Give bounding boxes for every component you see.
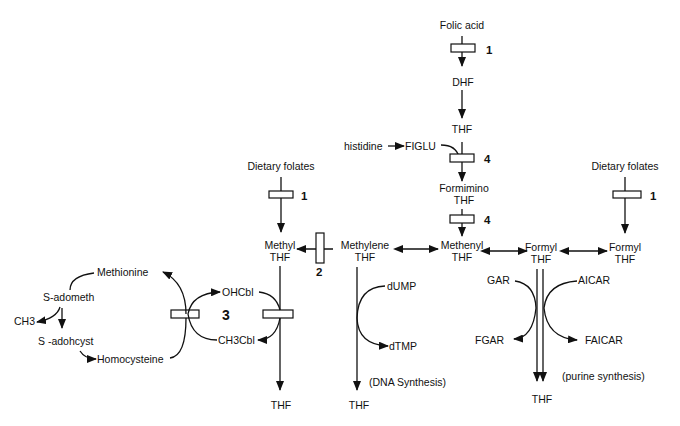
enzyme-4-label-a: 4 [484, 153, 491, 165]
dietary-folates-left-label: Dietary folates [247, 160, 314, 172]
formyl-thf-mid-label-2: THF [531, 253, 551, 265]
purine-synthesis-label: (purine synthesis) [562, 370, 645, 382]
enzyme-1-box-left [269, 191, 293, 198]
dump-label: dUMP [387, 280, 416, 292]
enzyme-1-label-top: 1 [486, 44, 493, 56]
methyl-thf-label-1: Methyl [265, 239, 296, 251]
homocysteine-label: Homocysteine [97, 353, 164, 365]
dhf-label: DHF [452, 76, 474, 88]
folic-acid-label: Folic acid [440, 19, 485, 31]
methionine-label: Methionine [97, 266, 149, 278]
formimino-label-1: Formimino [439, 182, 489, 194]
thf-bottom-methyl-label: THF [271, 399, 291, 411]
methylene-thf-label-2: THF [355, 251, 375, 263]
gar-label: GAR [487, 274, 510, 286]
enzyme-1-label-right: 1 [650, 190, 657, 202]
formimino-label-2: THF [454, 194, 474, 206]
formyl-thf-right-label-2: THF [615, 253, 635, 265]
enzyme-1-box-right [613, 191, 641, 198]
s-adohcyst-label: S -adohcyst [38, 335, 94, 347]
enzyme-4-box-a [450, 154, 474, 162]
ch3cbl-label: CH3Cbl [218, 334, 255, 346]
methenyl-thf-label-1: Methenyl [441, 239, 484, 251]
folate-pathway-diagram: Folic acid 1 DHF THF histidine FIGLU 4 F… [0, 0, 680, 426]
enzyme-4-box-b [450, 215, 474, 223]
faicar-label: FAICAR [585, 334, 623, 346]
thf-bottom-formyl-label: THF [532, 393, 552, 405]
enzyme-3-label: 3 [222, 307, 230, 323]
histidine-label: histidine [344, 140, 383, 152]
methenyl-thf-label-2: THF [452, 251, 472, 263]
enzyme-4-label-b: 4 [484, 214, 491, 226]
methylene-thf-label-1: Methylene [341, 239, 390, 251]
thf-top-label: THF [452, 123, 472, 135]
formyl-thf-mid-label-1: Formyl [525, 241, 557, 253]
formyl-thf-right-label-1: Formyl [609, 241, 641, 253]
s-adometh-label: S-adometh [43, 291, 95, 303]
enzyme-3-box-left [171, 310, 199, 318]
methyl-thf-label-2: THF [270, 251, 290, 263]
thf-bottom-methylene-label: THF [349, 399, 369, 411]
enzyme-2-box [316, 233, 324, 263]
enzyme-1-box-top [451, 44, 475, 52]
dna-synthesis-label: (DNA Synthesis) [369, 376, 446, 388]
enzyme-1-label-left: 1 [301, 190, 308, 202]
figlu-label: FIGLU [405, 140, 436, 152]
enzyme-3-box-right [263, 310, 293, 318]
ohcbl-label: OHCbl [222, 286, 254, 298]
dtmp-label: dTMP [389, 340, 417, 352]
aicar-label: AICAR [578, 274, 611, 286]
enzyme-2-label: 2 [316, 266, 322, 278]
fgar-label: FGAR [475, 334, 505, 346]
dietary-folates-right-label: Dietary folates [591, 160, 658, 172]
ch3-label: CH3 [14, 315, 35, 327]
